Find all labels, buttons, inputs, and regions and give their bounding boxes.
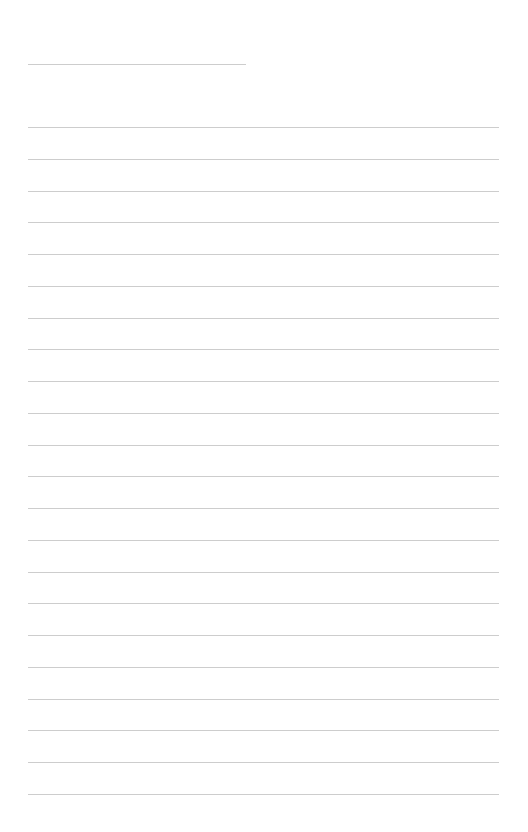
ruled-line [28,254,499,255]
ruled-line [28,127,499,128]
title-line [28,64,246,65]
ruled-line [28,667,499,668]
ruled-line [28,191,499,192]
ruled-line [28,349,499,350]
ruled-line [28,540,499,541]
ruled-line [28,730,499,731]
ruled-line [28,635,499,636]
ruled-line [28,699,499,700]
ruled-line [28,476,499,477]
ruled-line [28,381,499,382]
ruled-line [28,508,499,509]
ruled-line [28,286,499,287]
ruled-line [28,159,499,160]
ruled-line [28,572,499,573]
ruled-line [28,413,499,414]
ruled-line [28,762,499,763]
ruled-line [28,445,499,446]
notepaper-page [0,0,528,832]
ruled-line [28,318,499,319]
ruled-line [28,222,499,223]
ruled-line [28,603,499,604]
ruled-line [28,794,499,795]
